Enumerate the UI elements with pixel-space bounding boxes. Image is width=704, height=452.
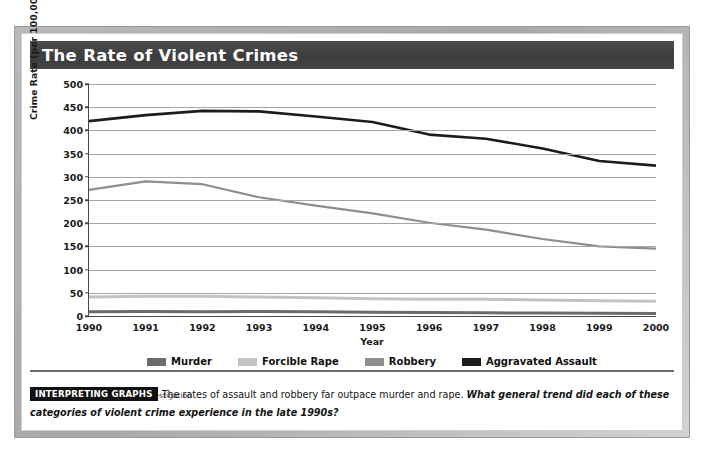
y-axis-tick bbox=[85, 246, 89, 248]
y-axis-tick-label: 150 bbox=[63, 241, 83, 252]
gridline bbox=[89, 130, 656, 131]
y-axis-tick-label: 400 bbox=[63, 125, 83, 136]
x-axis-tick-label: 1991 bbox=[132, 322, 158, 333]
y-axis-title: Crime Rate (per 100,000 population) bbox=[28, 0, 42, 120]
y-axis-tick-label: 100 bbox=[63, 264, 83, 275]
page-title: The Rate of Violent Crimes bbox=[30, 46, 298, 65]
y-axis-tick bbox=[85, 153, 89, 155]
x-axis-tick-label: 1997 bbox=[473, 322, 499, 333]
gridline bbox=[89, 154, 656, 155]
legend-swatch-icon bbox=[365, 358, 384, 366]
y-axis-tick bbox=[85, 222, 89, 224]
y-axis-tick bbox=[85, 199, 89, 201]
legend-item-aggravated-assault[interactable]: Aggravated Assault bbox=[462, 356, 597, 367]
x-axis-tick-label: 1999 bbox=[586, 322, 612, 333]
y-axis-tick bbox=[85, 130, 89, 132]
legend-swatch-icon bbox=[147, 358, 166, 366]
series-line-aggravated-assault bbox=[89, 111, 656, 166]
legend-label: Aggravated Assault bbox=[486, 356, 597, 367]
gridline bbox=[89, 177, 656, 178]
x-axis-tick-label: 1998 bbox=[529, 322, 555, 333]
figure-inner-panel: The Rate of Violent Crimes Crime Rate (p… bbox=[21, 33, 683, 431]
y-axis-tick-label: 500 bbox=[63, 79, 83, 90]
y-axis-tick-label: 200 bbox=[63, 218, 83, 229]
caption-statement: The rates of assault and robbery far out… bbox=[162, 389, 464, 400]
legend-item-robbery[interactable]: Robbery bbox=[365, 356, 436, 367]
legend-label: Murder bbox=[171, 356, 212, 367]
x-axis-tick-label: 1996 bbox=[416, 322, 442, 333]
caption-block: INTERPRETING GRAPHSThe rates of assault … bbox=[30, 380, 674, 420]
gridline bbox=[89, 107, 656, 108]
chart-legend: MurderForcible RapeRobberyAggravated Ass… bbox=[88, 356, 656, 367]
y-axis-tick bbox=[85, 176, 89, 178]
gridline bbox=[89, 246, 656, 247]
interpreting-graphs-badge: INTERPRETING GRAPHS bbox=[30, 387, 158, 401]
y-axis-tick-label: 300 bbox=[63, 171, 83, 182]
gridline bbox=[89, 270, 656, 271]
y-axis-tick bbox=[85, 269, 89, 271]
caption-divider bbox=[30, 370, 674, 372]
x-axis-tick-label: 1995 bbox=[359, 322, 385, 333]
figure-frame: The Rate of Violent Crimes Crime Rate (p… bbox=[14, 26, 690, 438]
gridline bbox=[89, 200, 656, 201]
y-axis-tick-label: 250 bbox=[63, 195, 83, 206]
x-axis-tick-label: 1993 bbox=[246, 322, 272, 333]
legend-swatch-icon bbox=[238, 358, 257, 366]
y-axis-tick bbox=[85, 315, 89, 317]
legend-label: Forcible Rape bbox=[262, 356, 339, 367]
legend-swatch-icon bbox=[462, 358, 481, 366]
x-axis-tick-label: 1992 bbox=[189, 322, 215, 333]
x-axis-tick-label: 1994 bbox=[303, 322, 329, 333]
plot-area: 0501001502002503003504004505001990199119… bbox=[88, 84, 656, 317]
legend-label: Robbery bbox=[389, 356, 436, 367]
series-line-robbery bbox=[89, 181, 656, 248]
x-axis-tick-label: 1990 bbox=[76, 322, 102, 333]
legend-item-murder[interactable]: Murder bbox=[147, 356, 212, 367]
x-axis-title: Year bbox=[88, 336, 656, 347]
title-bar: The Rate of Violent Crimes bbox=[30, 41, 674, 69]
series-line-murder bbox=[89, 311, 656, 313]
legend-item-forcible-rape[interactable]: Forcible Rape bbox=[238, 356, 339, 367]
series-line-forcible-rape bbox=[89, 296, 656, 301]
y-axis-tick-label: 450 bbox=[63, 102, 83, 113]
y-axis-tick bbox=[85, 106, 89, 108]
plot-region: Crime Rate (per 100,000 population) 0501… bbox=[30, 78, 674, 368]
y-axis-tick-label: 350 bbox=[63, 148, 83, 159]
gridline bbox=[89, 293, 656, 294]
y-axis-tick bbox=[85, 83, 89, 85]
gridline bbox=[89, 223, 656, 224]
y-axis-tick-label: 50 bbox=[70, 287, 83, 298]
gridline bbox=[89, 84, 656, 85]
y-axis-tick-label: 0 bbox=[76, 311, 83, 322]
x-axis-tick-label: 2000 bbox=[643, 322, 669, 333]
y-axis-tick bbox=[85, 292, 89, 294]
